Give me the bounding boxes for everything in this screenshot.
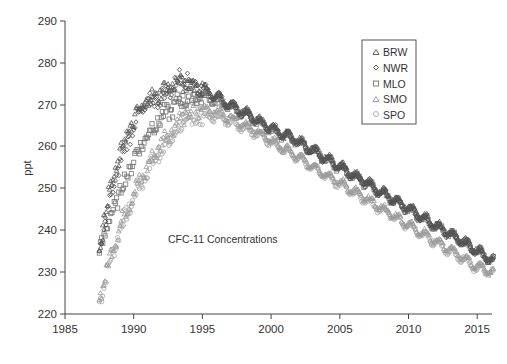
brw-data-point: [112, 174, 117, 178]
mlo-data-point: [175, 92, 179, 96]
y-tick: 290: [38, 15, 65, 27]
nwr-data-point: [128, 142, 132, 147]
brw-data-point: [103, 214, 108, 218]
nwr-data-point: [177, 67, 181, 72]
spo-data-point: [125, 217, 129, 221]
brw-data-point: [150, 87, 155, 91]
y-tick-label: 290: [38, 15, 57, 27]
y-tick-label: 270: [38, 99, 57, 111]
legend-label: BRW: [383, 46, 407, 58]
brw-data-point: [115, 159, 120, 163]
x-tick-label: 2010: [396, 323, 422, 335]
mlo-data-point: [124, 182, 128, 186]
legend-label: NWR: [383, 62, 408, 74]
x-axis-ticks: 1985 1990 1995 2000 2005 2010 2015: [52, 314, 490, 335]
mlo-data-point: [129, 172, 133, 176]
smo-data-point: [144, 165, 149, 169]
x-tick: 2000: [258, 314, 284, 335]
mlo-data-point: [141, 147, 145, 151]
legend-label: SMO: [383, 93, 407, 105]
mlo-data-point: [132, 160, 136, 164]
legend-label: MLO: [383, 78, 406, 90]
x-tick-label: 2015: [464, 323, 490, 335]
nwr-data-point: [134, 120, 138, 125]
brw-data-point: [159, 97, 164, 101]
brw-data-point: [104, 210, 109, 214]
y-tick: 270: [38, 99, 65, 111]
mlo-data-point: [113, 201, 117, 205]
cfc11-scatter-chart: 290 280 270 260 250 240 230 220 1985 199…: [0, 0, 507, 364]
smo-data-point: [178, 116, 183, 120]
smo-data-point: [184, 110, 189, 114]
y-tick: 240: [38, 224, 65, 236]
mlo-data-point: [110, 210, 114, 214]
data-points: [97, 67, 495, 303]
smo-data-point: [150, 148, 155, 152]
y-tick: 250: [38, 182, 65, 194]
x-tick: 2005: [327, 314, 353, 335]
y-tick: 220: [38, 308, 65, 320]
y-axis-ticks: 290 280 270 260 250 240 230 220: [38, 15, 65, 320]
y-tick-label: 240: [38, 224, 57, 236]
brw-data-point: [100, 223, 105, 227]
brw-data-point: [97, 248, 102, 252]
mlo-data-point: [187, 94, 191, 98]
y-tick: 230: [38, 266, 65, 278]
mlo-data-point: [158, 123, 162, 127]
x-tick-label: 1985: [52, 323, 78, 335]
chart-annotation: CFC-11 Concentrations: [168, 233, 278, 245]
x-tick-label: 1995: [190, 323, 216, 335]
y-tick: 260: [38, 140, 65, 152]
x-tick-label: 2000: [258, 323, 284, 335]
brw-data-point: [166, 82, 171, 86]
smo-data-point: [162, 129, 167, 133]
mlo-data-point: [150, 122, 154, 126]
y-tick-label: 230: [38, 266, 57, 278]
y-tick-label: 250: [38, 182, 57, 194]
x-tick-label: 2005: [327, 323, 353, 335]
mlo-data-point: [157, 122, 161, 126]
legend-label: SPO: [383, 109, 405, 121]
smo-data-point: [145, 169, 150, 173]
smo-data-point: [158, 148, 163, 152]
x-tick: 1995: [190, 314, 216, 335]
smo-data-point: [98, 291, 103, 295]
mlo-data-point: [116, 206, 120, 210]
legend: BRW NWR MLO SMO SPO: [362, 40, 416, 124]
mlo-data-point: [108, 219, 112, 223]
brw-data-point: [129, 121, 134, 125]
smo-data-point: [169, 127, 174, 131]
x-tick: 1990: [121, 314, 147, 335]
brw-data-point: [170, 81, 175, 85]
y-tick-label: 220: [38, 308, 57, 320]
y-tick-label: 260: [38, 140, 57, 152]
nwr-data-point: [185, 71, 189, 76]
y-axis-title: ppt: [21, 160, 33, 175]
y-tick: 280: [38, 57, 65, 69]
y-tick-label: 280: [38, 57, 57, 69]
x-tick: 2015: [464, 314, 490, 335]
x-tick: 2010: [396, 314, 422, 335]
x-tick-label: 1990: [121, 323, 147, 335]
